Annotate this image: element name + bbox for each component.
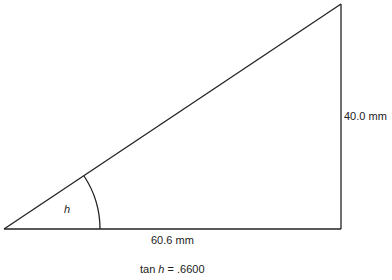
caption-prefix: tan <box>140 263 158 275</box>
triangle-diagram <box>0 0 392 280</box>
tangent-caption: tan h = .6600 <box>140 263 205 275</box>
hypotenuse <box>4 4 341 229</box>
height-label: 40.0 mm <box>344 110 387 122</box>
base-label: 60.6 mm <box>151 234 194 246</box>
angle-arc <box>84 176 100 229</box>
angle-label: h <box>64 203 70 215</box>
caption-value: = .6600 <box>164 263 204 275</box>
